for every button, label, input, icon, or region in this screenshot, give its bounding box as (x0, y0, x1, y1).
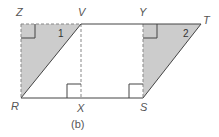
point-label-s: S (140, 101, 148, 113)
right-angle-marker-s (129, 84, 143, 98)
region-label-1: 1 (58, 28, 64, 39)
point-label-y: Y (139, 6, 147, 18)
right-angle-marker-x (67, 84, 81, 98)
point-label-x: X (76, 102, 85, 114)
point-label-z: Z (15, 6, 24, 18)
point-label-r: R (11, 100, 19, 112)
figure-caption: (b) (71, 118, 84, 130)
parallelogram-diagram: 1 2 Z V Y T R X S (b) (0, 0, 219, 137)
point-label-v: V (78, 6, 87, 18)
point-label-t: T (203, 14, 211, 26)
region-label-2: 2 (183, 28, 189, 39)
